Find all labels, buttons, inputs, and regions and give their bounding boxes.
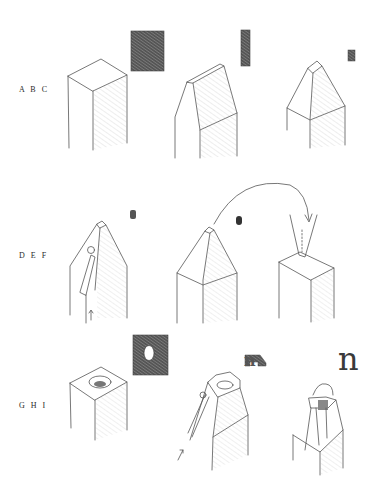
step-c-pointed-punch <box>287 50 355 148</box>
step-e-hardened-punch <box>177 216 242 323</box>
small-swatch <box>348 50 355 61</box>
step-d-cutting-counter <box>70 210 136 323</box>
curved-arrow-icon <box>214 183 309 224</box>
stem-swatch <box>241 30 250 66</box>
final-n-glyph: n <box>338 340 359 378</box>
step-a-blank-punch <box>68 31 164 150</box>
counter-glyph-dark <box>236 216 242 225</box>
step-h-cutting-outside: n <box>178 351 266 470</box>
step-b-bevel-punch <box>175 30 250 158</box>
step-g-counter-struck <box>70 335 168 440</box>
punch-cutting-illustration: n n <box>0 0 383 490</box>
n-glyph-hatched: n <box>244 351 256 370</box>
counter-swatch-large <box>131 31 164 71</box>
step-i-finished-punch: n <box>293 340 359 475</box>
counter-glyph-small <box>130 210 136 219</box>
